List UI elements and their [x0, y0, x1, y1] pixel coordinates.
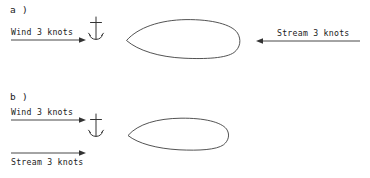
panel-a: a ) Wind 3 knots Stream 3 knots: [0, 0, 370, 89]
panel-a-graphics: [0, 0, 370, 89]
panel-a-boat-hull: [127, 20, 240, 59]
panel-a-stream-arrow-icon: [256, 38, 360, 44]
panel-b-graphics: [0, 89, 370, 178]
panel-a-anchor-icon: [89, 17, 104, 39]
panel-a-wind-arrow-icon: [11, 37, 86, 43]
panel-b-boat-hull: [128, 118, 229, 150]
panel-b-wind-arrow-icon: [11, 117, 86, 123]
panel-b-anchor-icon: [89, 114, 104, 136]
panel-b: b ) Wind 3 knots Stream 3 knots: [0, 89, 370, 178]
panel-b-stream-arrow-icon: [11, 150, 86, 156]
nautical-diagram: a ) Wind 3 knots Stream 3 knots: [0, 0, 370, 178]
